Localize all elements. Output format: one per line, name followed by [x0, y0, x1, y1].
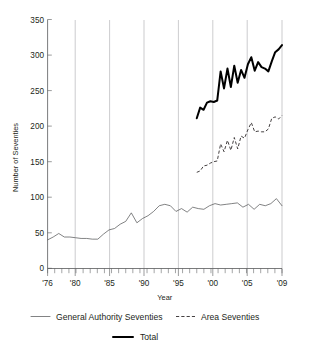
y-tick-label: 250	[30, 87, 44, 96]
legend-label-area-seventies: Area Seventies	[201, 312, 259, 322]
x-tick-label: '95	[173, 279, 184, 288]
y-tick-label: 350	[30, 16, 44, 25]
x-minor-tickmarks	[48, 269, 282, 274]
legend-label-general-authority-seventies: General Authority Seventies	[56, 312, 163, 322]
y-axis-title: Number of Seventies	[11, 123, 20, 192]
x-major-tickmarks	[48, 269, 282, 277]
y-tick-label: 200	[30, 122, 44, 131]
seventies-line-chart: 350 300 250 200 150 100 50 0 Number of S…	[0, 0, 312, 357]
x-axis-title: Year	[157, 293, 172, 302]
series-line-general-authority-seventies	[48, 199, 282, 240]
chart-svg: 350 300 250 200 150 100 50 0 Number of S…	[0, 0, 312, 357]
y-tick-labels: 350 300 250 200 150 100 50 0	[30, 16, 44, 274]
x-tick-label: '80	[70, 279, 81, 288]
y-tick-label: 300	[30, 51, 44, 60]
x-tick-label: '09	[277, 279, 288, 288]
x-tick-label: '05	[242, 279, 253, 288]
y-tick-label: 100	[30, 193, 44, 202]
x-tick-label: '90	[139, 279, 150, 288]
series-line-total	[197, 45, 282, 118]
legend: General Authority Seventies Area Seventi…	[31, 312, 259, 343]
x-tick-labels: '76 '80 '85 '90 '95 '00 '05 '09	[42, 279, 288, 288]
x-tick-label: '76	[42, 279, 53, 288]
y-tickmarks	[48, 20, 52, 269]
y-tick-label: 50	[35, 229, 45, 238]
x-tick-label: '00	[207, 279, 218, 288]
y-tick-label: 150	[30, 158, 44, 167]
x-tick-label: '85	[104, 279, 115, 288]
y-tick-label: 0	[39, 264, 44, 273]
series-line-area-seventies	[197, 115, 282, 172]
legend-label-total: Total	[140, 332, 158, 342]
